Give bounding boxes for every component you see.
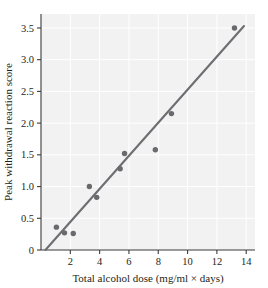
data-point	[54, 224, 59, 229]
x-tick-label: 8	[156, 256, 161, 267]
x-tick-label: 2	[68, 256, 73, 267]
x-axis-title: Total alcohol dose (mg/ml × days)	[72, 272, 223, 285]
data-point	[117, 166, 122, 171]
data-point	[94, 195, 99, 200]
y-tick-label: 0	[29, 245, 34, 256]
y-tick-label: 3.5	[21, 23, 34, 34]
y-tick-label: 2.0	[21, 118, 34, 129]
x-tick-label: 4	[97, 256, 103, 267]
data-point	[153, 147, 158, 152]
y-tick-label: 2.5	[21, 86, 34, 97]
y-tick-label: 0.5	[21, 213, 34, 224]
x-tick-label: 14	[241, 256, 252, 267]
y-axis-ticks	[37, 28, 41, 250]
chart-figure: 00.51.01.52.02.53.03.5 2468101214 Total …	[0, 0, 268, 288]
x-axis-ticks	[70, 250, 246, 254]
x-tick-label: 12	[212, 256, 223, 267]
data-point	[169, 111, 174, 116]
x-axis-tick-labels: 2468101214	[68, 256, 253, 267]
data-point	[71, 231, 76, 236]
data-point	[62, 230, 67, 235]
y-tick-label: 3.0	[21, 54, 34, 65]
y-axis-tick-labels: 00.51.01.52.02.53.03.5	[21, 23, 34, 256]
scatter-plot: 00.51.01.52.02.53.03.5 2468101214 Total …	[0, 0, 268, 288]
data-point	[232, 25, 237, 30]
data-point	[87, 184, 92, 189]
data-point	[122, 151, 127, 156]
y-tick-label: 1.0	[21, 181, 34, 192]
x-tick-label: 10	[182, 256, 193, 267]
x-tick-label: 6	[126, 256, 131, 267]
y-tick-label: 1.5	[21, 149, 34, 160]
y-axis-title: Peak withdrawal reaction score	[2, 63, 14, 201]
